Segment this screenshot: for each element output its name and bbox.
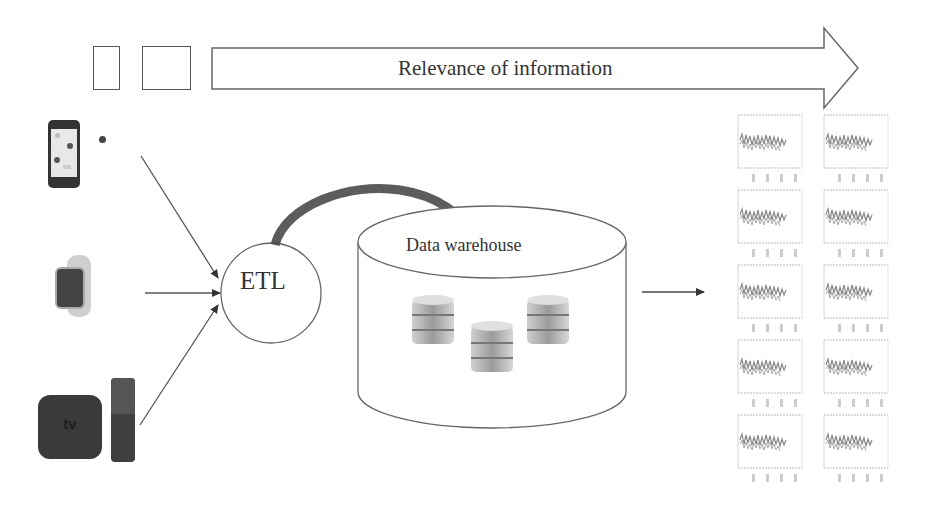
database-icon-2	[471, 321, 513, 372]
database-icon-3	[527, 295, 569, 344]
database-icon-1	[412, 295, 454, 344]
output-plots-grid	[736, 112, 906, 484]
